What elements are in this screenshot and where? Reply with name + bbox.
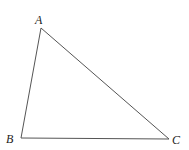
triangle-abc <box>21 28 169 139</box>
vertex-label-a: A <box>34 13 43 27</box>
vertex-label-b: B <box>6 132 14 146</box>
triangle-diagram: A B C <box>0 0 189 150</box>
vertex-label-c: C <box>172 133 181 147</box>
